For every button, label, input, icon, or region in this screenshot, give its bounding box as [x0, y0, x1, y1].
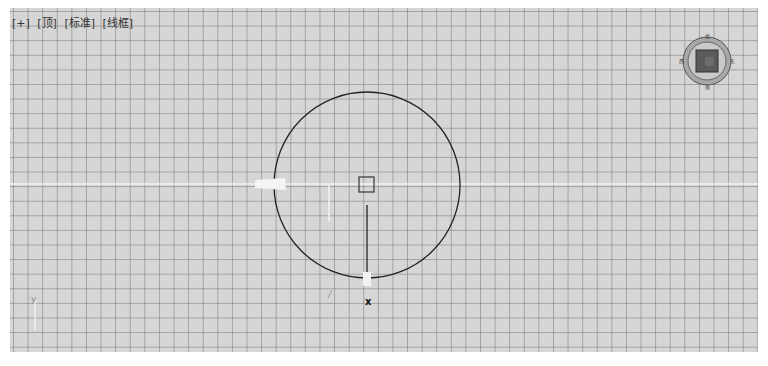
viewport-menu-shading[interactable]: [线框] — [103, 17, 134, 30]
svg-text:东: 东 — [730, 58, 735, 64]
viewcube-icon[interactable]: 北 南 西 东 — [678, 32, 736, 90]
svg-text:北: 北 — [705, 33, 710, 40]
viewport-menu-view[interactable]: [顶] — [37, 17, 57, 30]
viewport-label-bar: [+] [顶] [标准] [线框] — [12, 14, 137, 30]
viewport-menu-plus[interactable]: [+] — [12, 17, 30, 30]
viewport-menu-camera[interactable]: [标准] — [64, 17, 95, 30]
viewcube[interactable]: 北 南 西 东 — [678, 32, 736, 90]
top-viewport[interactable]: [+] [顶] [标准] [线框] — [10, 8, 758, 352]
svg-text:西: 西 — [679, 58, 684, 65]
svg-text:南: 南 — [705, 84, 710, 90]
